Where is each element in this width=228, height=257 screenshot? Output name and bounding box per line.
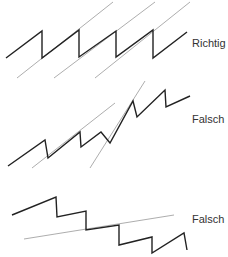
figure-correct: Richtig [6,2,226,78]
sawtooth-line [8,90,190,166]
figure-wrong-1: Falsch [8,81,224,168]
guide-line-2 [90,81,145,168]
sawtooth-line [12,197,187,253]
guide-line-1 [24,215,174,239]
label-falsch-1: Falsch [192,113,224,125]
label-richtig: Richtig [192,37,226,49]
sawtooth-line [6,30,187,58]
label-falsch-2: Falsch [192,213,224,225]
trendline-diagram: Richtig Falsch Falsch [0,0,228,257]
guide-line-1 [32,103,115,168]
figure-wrong-2: Falsch [12,197,224,253]
